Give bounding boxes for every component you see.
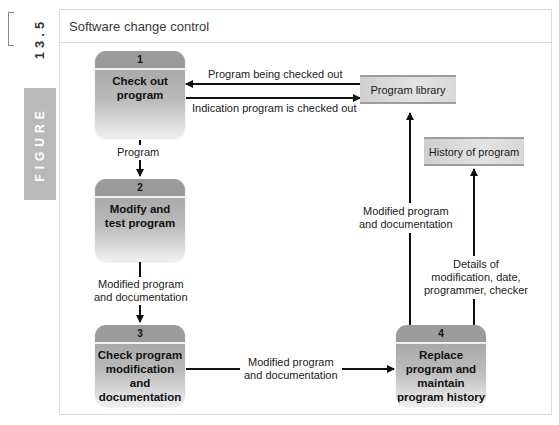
process-4-line-1: Replace xyxy=(396,348,486,362)
process-1-check-out-program: 1 Check out program xyxy=(95,51,185,138)
process-4-body: Replace program and maintain program his… xyxy=(396,344,486,406)
flow-label-modify-to-check-line-1: Modified program xyxy=(94,278,188,291)
flow-label-replace-to-library-line-2: and documentation xyxy=(359,218,453,231)
process-4-line-3: maintain xyxy=(396,376,486,390)
process-4-number: 4 xyxy=(396,325,486,344)
process-2-line-2: test program xyxy=(95,216,185,230)
flow-label-check-to-replace: Modified program and documentation xyxy=(240,356,342,382)
figure-tab: FIGURE xyxy=(24,88,56,200)
flow-label-replace-to-history-line-1: Details of xyxy=(424,258,528,271)
flow-label-replace-to-library-line-1: Modified program xyxy=(359,205,453,218)
process-3-line-1: Check program xyxy=(95,348,185,362)
process-1-line-1: Check out xyxy=(95,74,185,88)
flow-label-program-being-checked-out: Program being checked out xyxy=(208,68,343,81)
diagram-title-bar: Software change control xyxy=(60,10,551,43)
process-3-line-2: modification xyxy=(95,362,185,376)
flow-label-modify-to-check-line-2: and documentation xyxy=(94,291,188,304)
process-3-body: Check program modification and documenta… xyxy=(95,344,185,406)
process-3-check-modification: 3 Check program modification and documen… xyxy=(95,325,185,406)
flow-label-check-to-replace-line-2: and documentation xyxy=(244,369,338,382)
process-2-body: Modify and test program xyxy=(95,198,185,261)
figure-number-text: 13.5 xyxy=(33,17,48,58)
data-store-history-of-program: History of program xyxy=(424,137,524,166)
process-4-line-4: program history xyxy=(396,390,486,404)
flow-label-indication-checked-out: Indication program is checked out xyxy=(192,102,356,115)
data-store-program-library: Program library xyxy=(360,75,456,104)
figure-tab-label: FIGURE xyxy=(33,106,47,181)
process-2-modify-and-test: 2 Modify and test program xyxy=(95,179,185,261)
flow-label-replace-to-library: Modified program and documentation xyxy=(359,203,453,233)
flow-label-modify-to-check: Modified program and documentation xyxy=(94,277,188,305)
data-store-history-label: History of program xyxy=(429,146,519,158)
flow-label-replace-to-history: Details of modification, date, programme… xyxy=(424,256,528,299)
figure-bracket xyxy=(8,12,14,46)
process-4-line-2: program and xyxy=(396,362,486,376)
process-1-line-2: program xyxy=(95,88,185,102)
process-3-line-3: and xyxy=(95,376,185,390)
flow-label-program: Program xyxy=(117,145,159,160)
process-2-number: 2 xyxy=(95,179,185,198)
process-1-body: Check out program xyxy=(95,70,185,138)
diagram-title: Software change control xyxy=(69,19,209,34)
process-3-line-4: documentation xyxy=(95,390,185,404)
process-1-number: 1 xyxy=(95,51,185,70)
data-store-program-library-label: Program library xyxy=(370,84,445,96)
process-4-replace-program: 4 Replace program and maintain program h… xyxy=(396,325,486,406)
flow-label-replace-to-history-line-2: modification, date, xyxy=(424,271,528,284)
figure-number: 13.5 xyxy=(30,8,50,68)
process-3-number: 3 xyxy=(95,325,185,344)
process-2-line-1: Modify and xyxy=(95,202,185,216)
flow-label-check-to-replace-line-1: Modified program xyxy=(244,356,338,369)
flow-label-replace-to-history-line-3: programmer, checker xyxy=(424,284,528,297)
